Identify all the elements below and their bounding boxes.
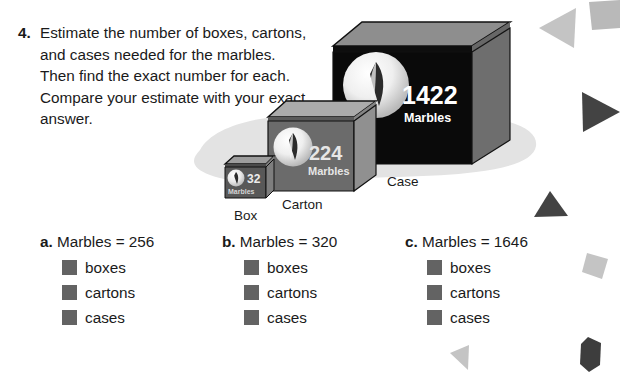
answer-b-label-boxes: boxes xyxy=(267,259,308,276)
quadrilateral-light-shape xyxy=(589,0,620,30)
blank-fill-box[interactable] xyxy=(62,285,77,300)
container-box: 32 Marbles Box xyxy=(225,156,274,223)
answer-b-item-cartons[interactable]: cartons xyxy=(244,280,337,305)
blank-fill-box[interactable] xyxy=(427,285,442,300)
answer-a-items: boxes cartons cases xyxy=(62,255,154,330)
blank-fill-box[interactable] xyxy=(62,260,77,275)
answer-c-prompt: Marbles = 1646 xyxy=(422,233,528,250)
carton-count: 224 xyxy=(309,142,343,164)
answer-c-letter: c. xyxy=(405,233,418,250)
answer-b-label-cases: cases xyxy=(267,309,307,326)
answer-c-label-boxes: boxes xyxy=(450,259,491,276)
answer-c-label-cartons: cartons xyxy=(450,284,500,301)
answer-a-label-boxes: boxes xyxy=(85,259,126,276)
answer-c-item-cartons[interactable]: cartons xyxy=(427,280,528,305)
blank-fill-box[interactable] xyxy=(244,285,259,300)
answer-c-item-cases[interactable]: cases xyxy=(427,305,528,330)
answer-b-letter: b. xyxy=(222,233,236,250)
blank-fill-box[interactable] xyxy=(244,310,259,325)
answer-c-head: c. Marbles = 1646 xyxy=(405,232,528,252)
case-caption: Case xyxy=(387,174,419,189)
answer-c-item-boxes[interactable]: boxes xyxy=(427,255,528,280)
answer-b-prompt: Marbles = 320 xyxy=(240,233,337,250)
answer-column-a: a. Marbles = 256 boxes cartons cases xyxy=(40,232,154,330)
answer-column-b: b. Marbles = 320 boxes cartons cases xyxy=(222,232,337,330)
answer-c-label-cases: cases xyxy=(450,309,490,326)
triangle-left-small-shape xyxy=(450,345,469,370)
answer-a-head: a. Marbles = 256 xyxy=(40,232,154,252)
blank-fill-box[interactable] xyxy=(427,260,442,275)
case-unit: Marbles xyxy=(404,111,451,125)
answer-b-head: b. Marbles = 320 xyxy=(222,232,337,252)
answer-a-item-boxes[interactable]: boxes xyxy=(62,255,154,280)
answer-a-letter: a. xyxy=(40,233,53,250)
answer-b-item-cases[interactable]: cases xyxy=(244,305,337,330)
carton-unit: Marbles xyxy=(308,165,350,177)
answer-b-item-boxes[interactable]: boxes xyxy=(244,255,337,280)
blank-fill-box[interactable] xyxy=(244,260,259,275)
marble-logo-icon-box xyxy=(228,170,245,187)
case-count: 1422 xyxy=(402,81,458,109)
answer-a-label-cartons: cartons xyxy=(85,284,135,301)
question-number: 4. xyxy=(18,24,31,41)
hexagon-dark-shape xyxy=(580,337,601,372)
box-count: 32 xyxy=(247,172,261,186)
worksheet-page: 4. Estimate the number of boxes, cartons… xyxy=(0,0,620,384)
marble-logo-icon-carton xyxy=(274,128,313,167)
triangle-left-light-shape xyxy=(539,8,576,48)
answer-a-item-cartons[interactable]: cartons xyxy=(62,280,154,305)
answer-a-label-cases: cases xyxy=(85,309,125,326)
triangle-right-dark-shape xyxy=(582,92,620,132)
answer-a-item-cases[interactable]: cases xyxy=(62,305,154,330)
carton-caption: Carton xyxy=(282,197,323,212)
blank-fill-box[interactable] xyxy=(62,310,77,325)
box-caption: Box xyxy=(234,208,258,223)
answer-c-items: boxes cartons cases xyxy=(427,255,528,330)
container-carton: 224 Marbles Carton xyxy=(268,101,376,212)
answer-b-items: boxes cartons cases xyxy=(244,255,337,330)
answer-column-c: c. Marbles = 1646 boxes cartons cases xyxy=(405,232,528,330)
answer-choices: a. Marbles = 256 boxes cartons cases xyxy=(0,232,620,342)
answer-b-label-cartons: cartons xyxy=(267,284,317,301)
box-unit: Marbles xyxy=(228,188,255,195)
marble-containers-illustration: 1422 Marbles Case xyxy=(180,0,540,228)
blank-fill-box[interactable] xyxy=(427,310,442,325)
answer-a-prompt: Marbles = 256 xyxy=(57,233,154,250)
